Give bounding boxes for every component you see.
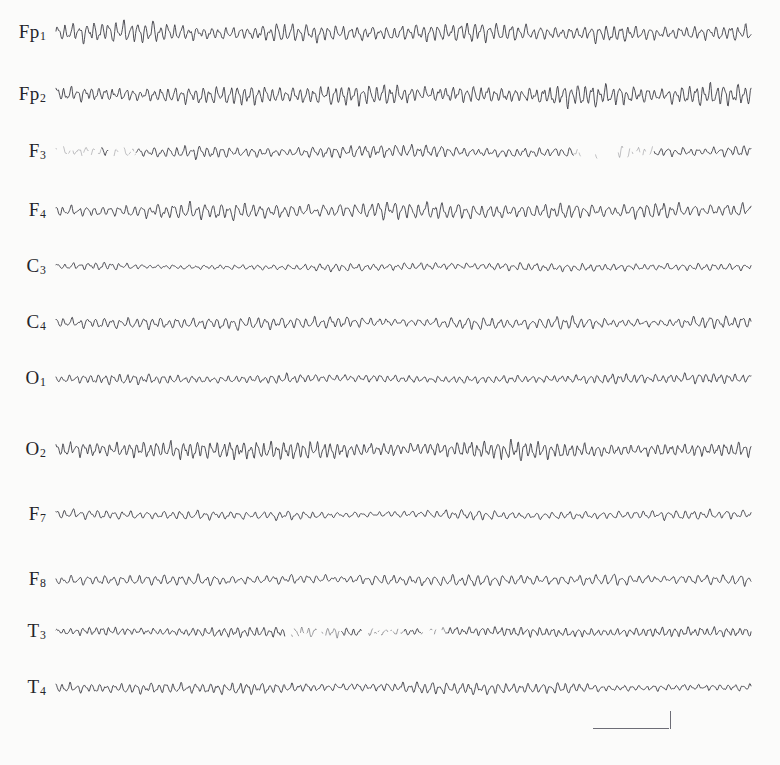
trace-segment-degraded	[307, 628, 311, 636]
trace-segment-degraded	[311, 636, 312, 637]
trace-segment-degraded	[117, 150, 118, 152]
trace-segment-degraded	[393, 629, 397, 634]
channel-label-text: F	[29, 568, 40, 589]
trace-segment	[136, 144, 573, 160]
trace-segment-degraded	[81, 150, 82, 155]
eeg-trace-fp2	[56, 82, 751, 109]
channel-label-f3: F3	[0, 140, 46, 163]
trace-segment-degraded	[442, 628, 445, 633]
trace-segment-degraded	[91, 149, 94, 155]
trace-segment-degraded	[301, 627, 304, 633]
trace-segment-degraded	[643, 149, 646, 154]
trace-segment-degraded	[381, 631, 384, 635]
trace-segment	[56, 627, 285, 638]
channel-label-subscript: 7	[40, 513, 46, 526]
trace-segment-degraded	[574, 150, 577, 154]
trace-segment	[56, 201, 751, 221]
channel-label-text: T	[28, 676, 40, 697]
trace-segment	[654, 146, 751, 157]
channel-label-f7: F7	[0, 503, 46, 526]
channel-label-subscript: 3	[40, 265, 46, 278]
trace-segment-degraded	[618, 146, 622, 157]
channel-label-c3: C3	[0, 255, 46, 278]
trace-segment-degraded	[369, 629, 373, 636]
eeg-trace-c3	[56, 262, 751, 272]
trace-segment	[56, 373, 751, 385]
channel-label-text: Fp	[19, 21, 40, 42]
calibration-vertical-tick	[670, 711, 671, 729]
channel-label-subscript: 8	[40, 578, 46, 591]
channel-label-o1: O1	[0, 367, 46, 390]
trace-segment-degraded	[73, 151, 76, 154]
channel-label-subscript: 4	[40, 209, 46, 222]
trace-segment-degraded	[64, 147, 67, 154]
trace-segment	[446, 627, 751, 638]
channel-label-text: T	[28, 620, 40, 641]
eeg-trace-t3	[56, 627, 751, 639]
channel-label-subscript: 4	[40, 321, 46, 334]
channel-label-text: C	[27, 255, 40, 276]
eeg-trace-f4	[56, 201, 751, 221]
trace-segment-degraded	[421, 633, 422, 634]
channel-label-text: F	[29, 503, 40, 524]
eeg-trace-o2	[56, 439, 751, 461]
channel-label-t4: T4	[0, 676, 46, 699]
trace-segment-degraded	[378, 631, 379, 632]
channel-label-subscript: 2	[40, 448, 46, 461]
eeg-trace-f3	[56, 144, 751, 160]
trace-segment-degraded	[596, 155, 597, 158]
channel-label-fp2: Fp2	[0, 83, 46, 106]
trace-segment-degraded	[628, 149, 630, 157]
channel-label-text: O	[25, 438, 39, 459]
channel-label-f8: F8	[0, 568, 46, 591]
trace-segment-degraded	[313, 629, 317, 635]
trace-segment	[101, 148, 107, 156]
channel-label-text: F	[29, 199, 40, 220]
trace-segment-degraded	[322, 632, 323, 633]
channel-label-subscript: 1	[40, 377, 46, 390]
trace-segment-degraded	[292, 635, 293, 636]
channel-label-text: Fp	[19, 83, 40, 104]
eeg-trace-c4	[56, 316, 751, 331]
trace-segment	[56, 574, 751, 587]
trace-segment-degraded	[430, 629, 432, 630]
trace-segment	[56, 82, 751, 109]
calibration-marker	[593, 712, 671, 734]
trace-segment-degraded	[124, 148, 128, 155]
trace-segment-degraded	[69, 151, 70, 153]
trace-segment-degraded	[114, 150, 116, 156]
trace-segment-degraded	[579, 153, 580, 156]
trace-segment	[56, 262, 751, 272]
channel-label-text: F	[29, 140, 40, 161]
trace-segment-degraded	[294, 629, 298, 636]
channel-label-subscript: 3	[40, 630, 46, 643]
channel-label-fp1: Fp1	[0, 21, 46, 44]
eeg-trace-t4	[56, 682, 751, 695]
trace-segment-degraded	[84, 148, 88, 153]
trace-segment	[56, 439, 751, 461]
trace-segment-degraded	[374, 632, 376, 633]
channel-label-subscript: 2	[40, 93, 46, 106]
trace-segment-degraded	[132, 149, 133, 151]
trace-segment	[56, 682, 751, 695]
calibration-horizontal-bar	[593, 728, 669, 729]
trace-segment	[56, 316, 751, 331]
trace-segment-degraded	[650, 147, 653, 154]
trace-segment-degraded	[335, 629, 339, 638]
eeg-trace-f8	[56, 574, 751, 587]
trace-segment-degraded	[98, 150, 101, 154]
channel-label-subscript: 1	[40, 31, 46, 44]
trace-segment-degraded	[326, 628, 330, 635]
channel-label-subscript: 3	[40, 150, 46, 163]
channel-label-c4: C4	[0, 311, 46, 334]
channel-label-subscript: 4	[40, 686, 46, 699]
trace-segment	[56, 20, 751, 44]
trace-segment-degraded	[330, 629, 334, 635]
channel-label-t3: T3	[0, 620, 46, 643]
eeg-trace-fp1	[56, 20, 751, 44]
channel-label-text: C	[27, 311, 40, 332]
eeg-traces-canvas	[0, 0, 780, 765]
eeg-recording-figure: Fp1Fp2F3F4C3C4O1O2F7F8T3T4	[0, 0, 780, 765]
trace-segment-degraded	[632, 152, 633, 154]
trace-segment	[342, 628, 362, 635]
